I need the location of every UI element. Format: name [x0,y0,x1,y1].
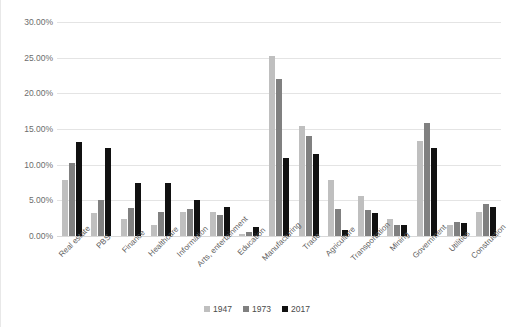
bar-group [235,22,265,236]
bar [283,158,289,236]
bar [358,196,364,236]
bar [306,136,312,236]
bar-group [146,22,176,236]
y-axis-tick-label: 5.00% [3,196,53,205]
bar [151,225,157,236]
x-label-slot: Agriculture [323,236,353,296]
bar [91,213,97,236]
bar-group [116,22,146,236]
x-label-slot: Construction [471,236,501,296]
bar [299,126,305,236]
bar [105,148,111,236]
bar [276,79,282,236]
legend-swatch-icon [204,306,210,312]
x-label-slot: Healthcare [146,236,176,296]
bar-group [471,22,501,236]
y-axis: 30.00%25.00%20.00%15.00%10.00%5.00%0.00% [1,22,53,236]
y-axis-tick-label: 10.00% [3,160,53,169]
x-label-slot: Real estate [57,236,87,296]
y-axis-tick-label: 0.00% [3,232,53,241]
legend-item[interactable]: 1947 [204,305,232,314]
bar-group [294,22,324,236]
x-label-slot: Trade [294,236,324,296]
x-label-slot: Government [412,236,442,296]
bar-group [57,22,87,236]
legend-label: 2017 [291,305,310,314]
bar-group [383,22,413,236]
bar [335,209,341,236]
bar-chart: 30.00%25.00%20.00%15.00%10.00%5.00%0.00%… [0,0,512,327]
bar-group [353,22,383,236]
bar [121,219,127,236]
legend-item[interactable]: 1973 [243,305,271,314]
x-label-slot: Mining [383,236,413,296]
bar [328,180,334,236]
bar [454,222,460,236]
bar-group [175,22,205,236]
bar [313,154,319,236]
y-axis-tick-label: 25.00% [3,53,53,62]
plot-area [57,22,501,236]
bar [424,123,430,236]
bar-group [323,22,353,236]
legend-swatch-icon [243,306,249,312]
bar-group [87,22,117,236]
bar [98,200,104,236]
bar [483,204,489,236]
bar [62,180,68,236]
bar [180,212,186,236]
bar-group [264,22,294,236]
bar [269,56,275,236]
legend-label: 1947 [213,305,232,314]
bar-group [205,22,235,236]
bar-group [442,22,472,236]
y-axis-tick-label: 15.00% [3,125,53,134]
bar [365,210,371,236]
bar [417,141,423,236]
bar [431,148,437,236]
legend-swatch-icon [282,306,288,312]
x-label-slot: Finance [116,236,146,296]
x-label-slot: Manufacturing [264,236,294,296]
bar [69,163,75,236]
x-label-slot: Utilities [442,236,472,296]
x-label-slot: PBS [87,236,117,296]
x-label-slot: Education [235,236,265,296]
bar [187,209,193,236]
bar [476,212,482,236]
y-axis-tick-label: 30.00% [3,18,53,27]
legend-item[interactable]: 2017 [282,305,310,314]
x-axis-tick-label: PBS [96,233,114,251]
bar [76,142,82,236]
x-axis-labels: Real estatePBSFinanceHealthcareInformati… [57,236,501,296]
bar [217,215,223,236]
bar-group [412,22,442,236]
x-label-slot: Transportation [353,236,383,296]
x-label-slot: Arts, entertainment [205,236,235,296]
bar [210,212,216,236]
bar-groups [57,22,501,236]
bar [128,208,134,236]
y-axis-tick-label: 20.00% [3,89,53,98]
bar [158,212,164,236]
legend-label: 1973 [252,305,271,314]
chart-legend: 194719732017 [1,305,512,314]
